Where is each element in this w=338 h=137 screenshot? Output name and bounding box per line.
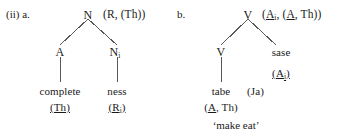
tree-b-right-features-agent: A [276, 67, 284, 79]
tree-a-right-branch [88, 19, 117, 45]
tree-a-left-leaf-features: (Th) [50, 102, 70, 113]
tree-b-root-argument-structure: (Ai, (A, Th)) [262, 9, 321, 21]
tree-b-left-leaf-word: tabe [212, 86, 231, 97]
tree-b-left-features-theme: , Th) [216, 101, 238, 113]
tree-a-right-leaf-features: (Ri) [108, 102, 125, 113]
tree-b-args-close: )) [314, 8, 322, 20]
tree-b-gloss: ‘make eat’ [213, 119, 260, 131]
tree-b-right-features: (Ai) [272, 68, 290, 79]
tree-b-root-category: V [244, 9, 253, 21]
tree-a-left-category-A: A [56, 46, 65, 58]
tree-a-right-category-N: Ni [110, 46, 121, 58]
tree-b-right-branch [248, 19, 276, 45]
tree-b-left-features-agent: A [208, 101, 216, 113]
tree-a-right-leaf-features-close: ) [122, 101, 126, 113]
tree-b-left-leaf-features: (A, Th) [204, 102, 238, 113]
example-number-label: (ii) [6, 8, 19, 20]
tree-b-left-category-V: V [217, 46, 226, 58]
tree-a-right-category-letter: N [110, 45, 119, 59]
tree-b-item-label: b. [177, 9, 185, 20]
tree-b-right-features-close: ) [286, 67, 290, 79]
syntax-tree-figure: (ii) a. N (R, (Th)) A Ni complete (Th) n… [0, 0, 338, 137]
tree-a-left-branch [60, 19, 88, 45]
tree-a-right-category-subscript: i [118, 51, 120, 60]
tree-b-args-agent-1-subscript: i [274, 13, 276, 22]
tree-b-args-theme: , Th [295, 8, 314, 20]
tree-b-args-separator: , ( [277, 8, 287, 20]
example-number-ii: (ii) a. [6, 9, 30, 20]
tree-b-left-branch [221, 19, 248, 45]
tree-b-left-leaf-language: (Ja) [247, 86, 264, 97]
tree-a-root-category: N [84, 9, 93, 21]
tree-a-right-leaf-features-open: (R [108, 101, 119, 113]
tree-a-left-leaf-word: complete [39, 86, 80, 97]
tree-a-item-label: a. [22, 8, 30, 20]
tree-b-args-agent-2: A [286, 8, 294, 20]
tree-b-right-features-subscript: i [284, 72, 286, 81]
tree-b-right-morpheme-sase: sase [272, 47, 291, 58]
tree-a-right-leaf-word: ness [107, 86, 126, 97]
tree-a-root-argument-structure: (R, (Th)) [103, 9, 145, 21]
